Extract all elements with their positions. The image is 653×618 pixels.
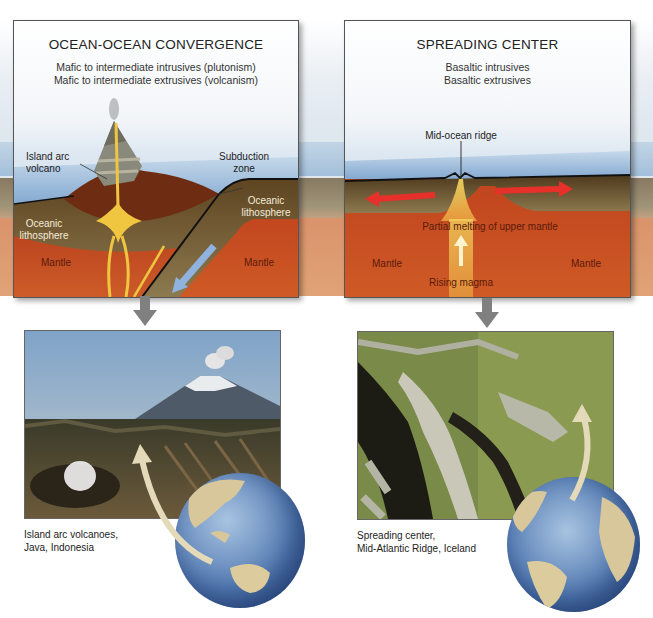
label-oceanic-lithosphere-right: Oceanic lithosphere: [234, 195, 298, 219]
label-island-arc-volcano: Island arc volcano: [26, 151, 69, 175]
label-line: volcano: [26, 163, 69, 175]
label-line: zone: [214, 163, 274, 175]
panel-title: SPREADING CENTER: [345, 37, 630, 52]
caption-line: Spreading center,: [357, 529, 476, 542]
caption-line: Island arc volcanoes,: [24, 528, 118, 541]
subtitle-line: Mafic to intermediate extrusives (volcan…: [14, 74, 298, 87]
spreading-center-panel: SPREADING CENTER Basaltic intrusives Bas…: [344, 20, 631, 298]
label-mantle-left: Mantle: [372, 258, 402, 270]
down-arrow-icon: [475, 298, 499, 328]
label-line: Oceanic: [16, 218, 72, 230]
subtitle-line: Mafic to intermediate intrusives (pluton…: [14, 61, 298, 74]
subtitle-line: Basaltic intrusives: [345, 61, 630, 74]
label-line: Island arc: [26, 151, 69, 163]
caption-line: Mid-Atlantic Ridge, Iceland: [357, 542, 476, 555]
label-mantle-right: Mantle: [571, 258, 601, 270]
label-mantle-left: Mantle: [41, 257, 71, 269]
down-arrow-icon: [133, 296, 157, 326]
label-subduction-zone: Subduction zone: [214, 151, 274, 175]
pointer-arrow-indonesia-icon: [120, 440, 230, 580]
label-line: lithosphere: [16, 230, 72, 242]
label-rising-magma: Rising magma: [411, 277, 511, 289]
subtitle-line: Basaltic extrusives: [345, 74, 630, 87]
caption-line: Java, Indonesia: [24, 541, 118, 554]
label-line: lithosphere: [234, 207, 298, 219]
label-oceanic-lithosphere-left: Oceanic lithosphere: [16, 218, 72, 242]
label-partial-melting: Partial melting of upper mantle: [395, 221, 585, 233]
ocean-ocean-convergence-panel: OCEAN-OCEAN CONVERGENCE Mafic to interme…: [13, 20, 299, 298]
left-photo-caption: Island arc volcanoes, Java, Indonesia: [24, 528, 118, 554]
panel-subtitle: Basaltic intrusives Basaltic extrusives: [345, 61, 630, 87]
panel-subtitle: Mafic to intermediate intrusives (pluton…: [14, 61, 298, 87]
pointer-arrow-iceland-icon: [560, 400, 610, 510]
panel-title: OCEAN-OCEAN CONVERGENCE: [14, 37, 298, 52]
label-mantle-right: Mantle: [244, 257, 274, 269]
label-line: Oceanic: [234, 195, 298, 207]
label-mid-ocean-ridge: Mid-ocean ridge: [411, 130, 511, 142]
label-line: Subduction: [214, 151, 274, 163]
right-photo-caption: Spreading center, Mid-Atlantic Ridge, Ic…: [357, 529, 476, 555]
